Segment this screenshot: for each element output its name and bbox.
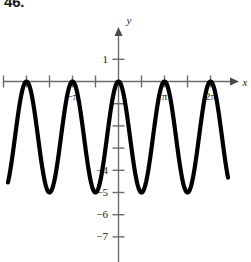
y-tick-label-1: 1	[103, 53, 109, 65]
graph-canvas: y x −π π 2π 1 −4 −5 −6 −7	[0, 0, 251, 262]
figure-panel: 46.	[0, 0, 251, 262]
x-axis-arrowhead	[230, 78, 239, 86]
y-tick-label-neg7: −7	[96, 230, 108, 242]
y-axis-arrowhead	[115, 27, 123, 36]
y-tick-label-neg6: −6	[96, 208, 108, 220]
x-tick-label-pi: π	[162, 90, 168, 102]
y-axis-label: y	[126, 14, 132, 26]
x-axis-label: x	[242, 76, 248, 88]
